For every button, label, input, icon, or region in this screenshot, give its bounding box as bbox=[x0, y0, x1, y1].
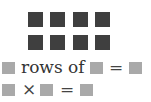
equals-sign: = bbox=[109, 59, 123, 76]
answer-blank-rows[interactable] bbox=[2, 62, 15, 74]
rows-of-label: rows of bbox=[21, 59, 85, 76]
dot-array bbox=[28, 12, 110, 51]
array-square bbox=[28, 35, 43, 50]
times-sign: × bbox=[22, 81, 36, 98]
array-square bbox=[50, 12, 65, 27]
answer-blank-factor-2[interactable] bbox=[40, 84, 53, 96]
answer-blank-total[interactable] bbox=[129, 62, 142, 74]
array-square bbox=[95, 12, 110, 27]
array-square bbox=[73, 35, 88, 50]
array-square bbox=[95, 35, 110, 50]
answer-blank-factor-1[interactable] bbox=[2, 84, 15, 96]
array-square bbox=[50, 35, 65, 50]
equals-sign: = bbox=[60, 81, 74, 98]
answer-blank-product[interactable] bbox=[80, 84, 93, 96]
array-square bbox=[28, 12, 43, 27]
answer-blank-per-row[interactable] bbox=[90, 62, 103, 74]
array-square bbox=[73, 12, 88, 27]
